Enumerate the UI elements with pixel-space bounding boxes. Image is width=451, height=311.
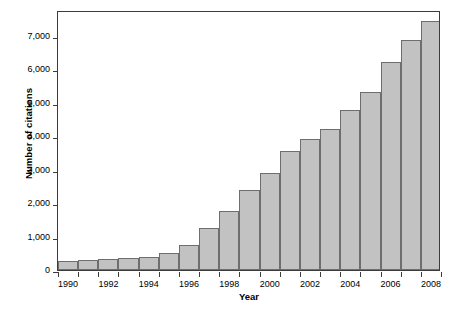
x-tick-mark	[118, 272, 119, 277]
bar-1996	[179, 245, 199, 270]
y-tick-label: 7,000	[27, 31, 50, 41]
x-axis-title: Year	[57, 291, 441, 302]
x-tick-mark	[300, 272, 301, 277]
bar-1990	[58, 261, 78, 270]
y-tick-label: 6,000	[27, 64, 50, 74]
x-tick-mark	[401, 272, 402, 277]
bar-2001	[280, 151, 300, 270]
citations-bar-chart: Number of citations 01,0002,0003,0004,00…	[0, 0, 451, 311]
x-tick-mark	[78, 272, 79, 277]
x-tick-label-2008: 2008	[421, 279, 441, 289]
x-tick-mark	[441, 272, 442, 277]
x-tick-mark	[159, 272, 160, 277]
plot-area: 01,0002,0003,0004,0005,0006,0007,000 199…	[57, 11, 440, 271]
y-tick-mark	[53, 205, 58, 206]
x-tick-mark	[280, 272, 281, 277]
bar-2002	[300, 139, 320, 270]
x-tick-label-1996: 1996	[179, 279, 199, 289]
x-tick-label-2004: 2004	[340, 279, 360, 289]
x-tick-mark	[340, 272, 341, 277]
bar-1991	[78, 260, 98, 270]
bar-1995	[159, 253, 179, 270]
x-tick-label-1994: 1994	[139, 279, 159, 289]
bar-1997	[199, 228, 219, 270]
x-tick-mark	[421, 272, 422, 277]
y-tick-mark	[53, 172, 58, 173]
bar-2000	[260, 173, 280, 270]
x-tick-label-2002: 2002	[300, 279, 320, 289]
x-tick-mark	[139, 272, 140, 277]
bar-1994	[139, 257, 159, 270]
bar-2007	[401, 40, 421, 270]
bar-2008	[421, 21, 439, 270]
x-tick-mark	[219, 272, 220, 277]
bar-1998	[219, 211, 239, 270]
y-tick-mark	[53, 138, 58, 139]
bar-1993	[118, 258, 138, 270]
bar-2005	[360, 92, 380, 270]
bar-2006	[381, 62, 401, 270]
bar-1999	[239, 190, 259, 270]
x-tick-mark	[381, 272, 382, 277]
x-tick-label-1992: 1992	[98, 279, 118, 289]
bar-1992	[98, 259, 118, 270]
bar-2003	[320, 129, 340, 270]
y-tick-label: 3,000	[27, 165, 50, 175]
y-tick-mark	[53, 105, 58, 106]
x-tick-mark	[58, 272, 59, 277]
bars-layer	[58, 12, 439, 270]
x-tick-mark	[360, 272, 361, 277]
bar-2004	[340, 110, 360, 270]
x-tick-mark	[199, 272, 200, 277]
x-tick-label-2006: 2006	[381, 279, 401, 289]
x-tick-label-1998: 1998	[219, 279, 239, 289]
y-tick-label: 4,000	[27, 131, 50, 141]
x-tick-label-1990: 1990	[58, 279, 78, 289]
y-tick-mark	[53, 38, 58, 39]
y-tick-label: 0	[45, 265, 50, 275]
y-tick-label: 2,000	[27, 198, 50, 208]
y-tick-mark	[53, 239, 58, 240]
y-tick-label: 5,000	[27, 98, 50, 108]
x-tick-mark	[239, 272, 240, 277]
x-tick-mark	[98, 272, 99, 277]
x-tick-mark	[320, 272, 321, 277]
x-tick-label-2000: 2000	[260, 279, 280, 289]
y-tick-mark	[53, 71, 58, 72]
x-tick-mark	[179, 272, 180, 277]
y-tick-label: 1,000	[27, 232, 50, 242]
x-tick-mark	[260, 272, 261, 277]
